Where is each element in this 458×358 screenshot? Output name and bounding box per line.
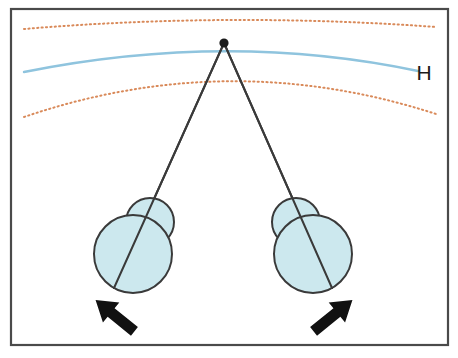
eye-right-globe [274, 215, 352, 293]
figure-container: H [0, 0, 458, 358]
fixation-point [219, 38, 228, 47]
diagram-canvas: H [0, 0, 458, 358]
horopter-label: H [416, 61, 431, 84]
diagram-border [11, 9, 448, 345]
eye-left-globe [94, 215, 172, 293]
